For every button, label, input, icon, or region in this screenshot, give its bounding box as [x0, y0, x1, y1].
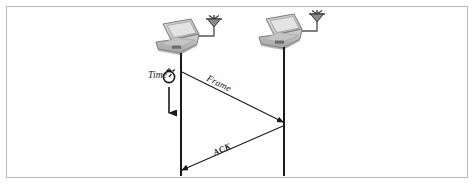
laptop-icon — [156, 19, 199, 55]
laptop-icon — [259, 14, 302, 50]
antenna-icon — [309, 10, 325, 22]
antenna-wire — [197, 27, 214, 36]
station-left-group — [156, 15, 222, 176]
antenna-icon — [206, 15, 222, 27]
station-right-group — [259, 10, 325, 176]
message-arrow-frame — [182, 72, 283, 122]
message-arrow-ack — [182, 126, 283, 170]
time-axis-label: Time — [148, 71, 167, 81]
antenna-wire — [300, 22, 317, 31]
figure-container: Time Frame ACK — [0, 0, 475, 192]
diagram-canvas — [0, 0, 475, 192]
